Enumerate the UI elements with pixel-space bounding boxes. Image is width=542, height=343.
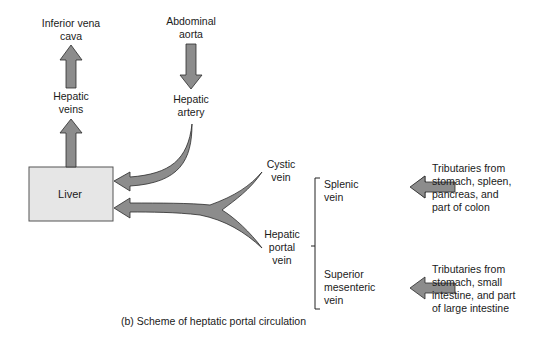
label-abdominal-aorta: Abdominal aorta [156,15,226,41]
label-line: Hepatic [36,90,106,103]
label-line: intestine, and part [432,289,515,302]
label-line: pancreas, and [432,188,511,201]
label-inferior-vena-cava: Inferior vena cava [36,17,106,43]
label-line: Splenic [324,178,358,191]
label-line: cava [36,30,106,43]
arrow-liver-to-hepatic-veins [60,119,82,167]
label-line: Hepatic [156,93,226,106]
label-line: part of colon [432,201,511,214]
label-hepatic-portal-vein: Hepatic portal vein [260,228,304,267]
label-line: Tributaries from [432,263,515,276]
label-line: stomach, spleen, [432,175,511,188]
label-line: Superior [324,268,375,281]
label-hepatic-artery: Hepatic artery [156,93,226,119]
label-line: artery [156,106,226,119]
label-splenic-vein: Splenic vein [324,178,358,204]
label-superior-mesenteric-vein: Superior mesenteric vein [324,268,375,307]
label-line: Tributaries from [432,162,511,175]
label-line: vein [260,254,304,267]
figure-caption: (b) Scheme of heptatic portal circulatio… [121,315,306,328]
label-line: portal [260,241,304,254]
label-line: Hepatic [260,228,304,241]
label-hepatic-veins: Hepatic veins [36,90,106,116]
label-line: aorta [156,28,226,41]
arrow-hepatic-veins-to-ivc [60,45,82,88]
label-line: vein [324,294,375,307]
liver-label: Liver [28,167,112,221]
portal-bracket [311,178,320,309]
label-line: veins [36,103,106,116]
arrow-aorta-to-hepatic-artery [180,44,202,89]
label-line: Inferior vena [36,17,106,30]
label-line: mesenteric [324,281,375,294]
label-tributaries-splenic: Tributaries from stomach, spleen, pancre… [432,162,511,214]
label-cystic-vein: Cystic vein [260,158,302,184]
label-line: of large intestine [432,302,515,315]
label-tributaries-mesenteric: Tributaries from stomach, small intestin… [432,263,515,315]
arrow-hepatic-artery-to-liver [114,124,192,191]
label-line: vein [260,171,302,184]
label-line: vein [324,191,358,204]
label-line: Abdominal [156,15,226,28]
label-line: stomach, small [432,276,515,289]
label-line: Cystic [260,158,302,171]
